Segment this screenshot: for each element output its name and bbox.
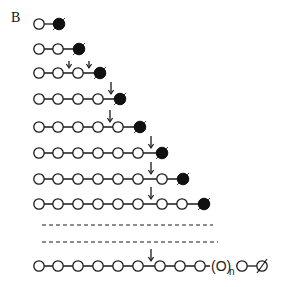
open-node-icon [53, 122, 63, 132]
diagram-canvas: B (O)n [0, 0, 287, 287]
open-node-icon [113, 199, 123, 209]
open-node-icon [73, 174, 83, 184]
open-node-icon [177, 199, 187, 209]
open-node-icon [93, 94, 103, 104]
open-node-icon [53, 174, 63, 184]
open-node-icon [93, 122, 103, 132]
open-node-icon [157, 199, 167, 209]
open-node-icon [34, 199, 44, 209]
open-node-icon [113, 174, 123, 184]
open-node-icon [133, 174, 143, 184]
open-node-icon [73, 261, 83, 271]
open-node-icon [34, 68, 44, 78]
open-node-icon [157, 174, 167, 184]
open-node-icon [155, 261, 165, 271]
open-node-icon [34, 44, 44, 54]
open-node-icon [113, 122, 123, 132]
open-node-icon [133, 261, 143, 271]
open-node-icon [133, 199, 143, 209]
chain-diagram: (O)n [0, 0, 287, 287]
open-node-icon [93, 261, 103, 271]
open-node-icon [195, 261, 205, 271]
open-node-icon [34, 19, 44, 29]
open-node-icon [34, 94, 44, 104]
open-node-icon [93, 199, 103, 209]
open-node-icon [53, 68, 63, 78]
open-node-icon [113, 148, 123, 158]
open-node-icon [53, 148, 63, 158]
open-node-icon [73, 94, 83, 104]
open-node-icon [53, 261, 63, 271]
open-node-icon [53, 94, 63, 104]
open-node-icon [34, 122, 44, 132]
open-node-icon [53, 199, 63, 209]
open-node-icon [34, 261, 44, 271]
open-node-icon [34, 148, 44, 158]
open-node-icon [73, 122, 83, 132]
open-node-icon [237, 261, 247, 271]
open-node-icon [113, 261, 123, 271]
open-node-icon [93, 174, 103, 184]
open-node-icon [93, 148, 103, 158]
open-node-icon [133, 148, 143, 158]
open-node-icon [53, 44, 63, 54]
repeat-subscript: n [229, 266, 235, 277]
open-node-icon [73, 148, 83, 158]
open-node-icon [73, 199, 83, 209]
open-node-icon [34, 174, 44, 184]
open-node-icon [73, 68, 83, 78]
open-node-icon [175, 261, 185, 271]
